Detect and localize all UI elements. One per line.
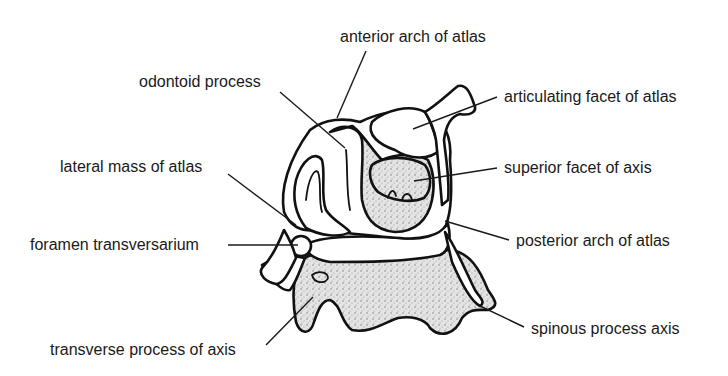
leader-anterior-arch — [337, 51, 366, 118]
label-transverse-process: transverse process of axis — [50, 341, 236, 358]
label-lateral-mass: lateral mass of atlas — [60, 158, 202, 175]
label-odontoid-process: odontoid process — [139, 73, 261, 90]
label-foramen-transversarium: foramen transversarium — [30, 236, 199, 253]
vertebra-illustration — [261, 86, 495, 334]
label-anterior-arch: anterior arch of atlas — [340, 28, 486, 45]
leader-posterior-arch — [445, 221, 509, 240]
leader-spinous-process — [480, 306, 524, 327]
label-superior-facet: superior facet of axis — [504, 159, 652, 176]
label-articulating-facet: articulating facet of atlas — [504, 88, 677, 105]
axis-body — [293, 250, 495, 334]
label-spinous-process: spinous process axis — [531, 320, 680, 337]
atlas-axis-diagram: anterior arch of atlas odontoid process … — [0, 0, 728, 376]
label-posterior-arch: posterior arch of atlas — [516, 232, 670, 249]
